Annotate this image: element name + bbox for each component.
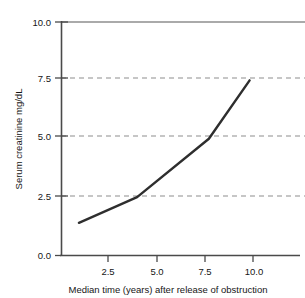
y-tick-label-5: 5.0	[38, 131, 51, 142]
line-chart: 0.0 2.5 5.0 7.5 10.0 2.5 5.0 7.5 10.0 Se…	[0, 0, 305, 298]
x-tick-label-7-5: 7.5	[198, 266, 211, 277]
y-axis-title: Serum creatinine mg/dL	[13, 89, 24, 190]
y-tick-label-2-5: 2.5	[38, 191, 51, 202]
gridlines-group	[61, 22, 305, 196]
x-tick-label-5: 5.0	[150, 266, 163, 277]
chart-container: 0.0 2.5 5.0 7.5 10.0 2.5 5.0 7.5 10.0 Se…	[0, 0, 305, 298]
x-tick-label-10: 10.0	[245, 266, 264, 277]
data-line-serum-creatinine	[79, 80, 250, 222]
y-tick-label-10: 10.0	[33, 17, 52, 28]
x-tick-label-2-5: 2.5	[101, 266, 114, 277]
axes-group	[60, 21, 300, 256]
y-tick-label-0: 0.0	[38, 250, 51, 261]
x-tick-labels: 2.5 5.0 7.5 10.0	[101, 266, 263, 277]
y-tick-labels: 0.0 2.5 5.0 7.5 10.0	[33, 17, 52, 262]
y-tick-label-7-5: 7.5	[38, 73, 51, 84]
x-axis-title: Median time (years) after release of obs…	[68, 284, 267, 295]
